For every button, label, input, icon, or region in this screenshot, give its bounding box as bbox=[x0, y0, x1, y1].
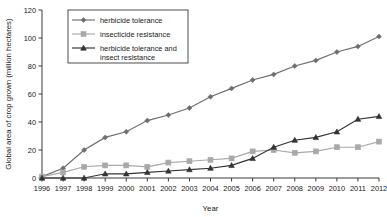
x-tick-label: 2008 bbox=[287, 184, 303, 193]
data-point-square bbox=[81, 32, 86, 37]
data-point-diamond bbox=[124, 129, 129, 134]
data-point-diamond bbox=[334, 50, 339, 55]
data-point-square bbox=[187, 159, 192, 164]
data-point-diamond bbox=[292, 64, 297, 69]
x-tick-label: 1999 bbox=[97, 184, 113, 193]
data-point-square bbox=[124, 163, 129, 168]
y-tick-label: 20 bbox=[28, 146, 36, 155]
data-point-triangle bbox=[334, 129, 340, 134]
x-tick-label: 2011 bbox=[350, 184, 366, 193]
y-tick-label: 0 bbox=[32, 174, 36, 183]
data-point-diamond bbox=[250, 78, 255, 83]
y-tick-label: 40 bbox=[28, 118, 36, 127]
data-point-square bbox=[82, 164, 87, 169]
x-tick-label: 2004 bbox=[202, 184, 218, 193]
x-tick-label: 2006 bbox=[244, 184, 260, 193]
series-1 bbox=[40, 139, 382, 179]
x-tick-label: 2010 bbox=[329, 184, 345, 193]
y-axis-title: Global area of crop grown (million hecta… bbox=[4, 18, 13, 170]
data-point-square bbox=[61, 170, 66, 175]
x-tick-label: 2009 bbox=[308, 184, 324, 193]
line-chart: 0204060801001201996199719981999200020012… bbox=[0, 0, 387, 217]
x-tick-label: 2012 bbox=[371, 184, 387, 193]
data-point-square bbox=[103, 163, 108, 168]
data-point-diamond bbox=[271, 72, 276, 77]
x-tick-label: 1998 bbox=[76, 184, 92, 193]
data-point-square bbox=[313, 149, 318, 154]
data-point-square bbox=[250, 149, 255, 154]
chart-container: 0204060801001201996199719981999200020012… bbox=[0, 0, 387, 217]
data-point-diamond bbox=[377, 34, 382, 39]
legend-label: herbicide tolerance bbox=[100, 16, 162, 25]
y-tick-label: 100 bbox=[24, 34, 36, 43]
legend-label: herbicide tolerance and bbox=[100, 44, 177, 53]
x-tick-label: 2002 bbox=[160, 184, 176, 193]
x-tick-label: 2000 bbox=[118, 184, 134, 193]
y-axis-ticks: 020406080100120 bbox=[24, 6, 42, 183]
x-tick-label: 1996 bbox=[34, 184, 50, 193]
series-2 bbox=[39, 114, 382, 181]
data-point-square bbox=[208, 157, 213, 162]
data-point-diamond bbox=[229, 86, 234, 91]
data-point-square bbox=[145, 164, 150, 169]
data-point-diamond bbox=[313, 58, 318, 63]
data-point-diamond bbox=[166, 113, 171, 118]
data-point-square bbox=[377, 139, 382, 144]
data-point-diamond bbox=[355, 44, 360, 49]
legend-label: insecticide resistance bbox=[100, 30, 170, 39]
data-point-diamond bbox=[145, 118, 150, 123]
x-tick-label: 2003 bbox=[181, 184, 197, 193]
data-point-square bbox=[292, 150, 297, 155]
x-tick-label: 2007 bbox=[265, 184, 281, 193]
data-point-square bbox=[229, 156, 234, 161]
data-point-diamond bbox=[187, 106, 192, 111]
x-tick-label: 2001 bbox=[139, 184, 155, 193]
y-tick-label: 60 bbox=[28, 90, 36, 99]
data-point-diamond bbox=[103, 135, 108, 140]
data-point-triangle bbox=[250, 156, 256, 161]
x-axis-title: Year bbox=[203, 204, 219, 213]
data-point-square bbox=[355, 145, 360, 150]
y-tick-label: 80 bbox=[28, 62, 36, 71]
data-point-square bbox=[166, 160, 171, 165]
data-point-diamond bbox=[208, 94, 213, 99]
legend-label: insect resistance bbox=[100, 53, 155, 62]
data-point-square bbox=[334, 145, 339, 150]
y-tick-label: 120 bbox=[24, 6, 36, 15]
data-point-triangle bbox=[376, 114, 382, 119]
x-tick-label: 1997 bbox=[55, 184, 71, 193]
x-tick-label: 2005 bbox=[223, 184, 239, 193]
